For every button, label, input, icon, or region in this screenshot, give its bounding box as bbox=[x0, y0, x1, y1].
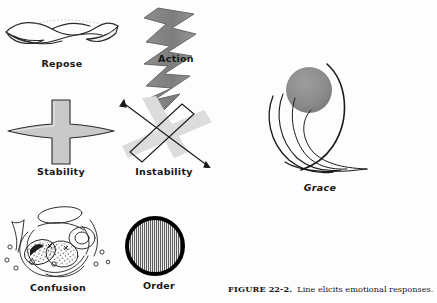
order-icon bbox=[118, 214, 200, 280]
panel-label-action: Action bbox=[134, 53, 218, 64]
panel-label-stability: Stability bbox=[6, 166, 116, 177]
grace-icon bbox=[255, 62, 385, 182]
repose-icon bbox=[2, 10, 122, 58]
caption-figure-word: FIGURE bbox=[228, 284, 266, 294]
panel-label-confusion: Confusion bbox=[2, 282, 114, 293]
stability-icon bbox=[6, 98, 116, 166]
confusion-icon bbox=[2, 202, 114, 282]
panel-repose: Repose bbox=[2, 10, 122, 76]
instability-icon bbox=[112, 96, 216, 168]
panel-confusion: Confusion bbox=[2, 202, 114, 296]
figure-caption: FIGURE 22-2. Line elicits emotional resp… bbox=[228, 284, 436, 295]
caption-figure-number: 22-2. bbox=[269, 284, 292, 294]
panel-label-instability: Instability bbox=[112, 166, 216, 177]
figure-plate: Repose Action Stability bbox=[0, 0, 437, 303]
panel-grace: Grace bbox=[255, 62, 385, 202]
panel-instability: Instability bbox=[112, 96, 216, 184]
panel-label-order: Order bbox=[118, 280, 200, 291]
caption-figure-text: Line elicits emotional responses. bbox=[297, 284, 433, 294]
panel-order: Order bbox=[118, 214, 200, 296]
panel-label-grace: Grace bbox=[255, 182, 385, 193]
panel-label-repose: Repose bbox=[2, 58, 122, 69]
panel-stability: Stability bbox=[6, 98, 116, 184]
